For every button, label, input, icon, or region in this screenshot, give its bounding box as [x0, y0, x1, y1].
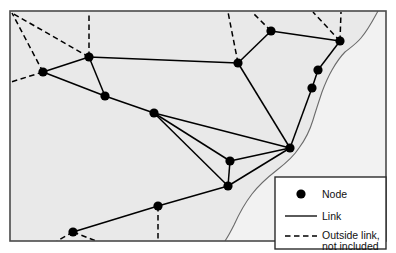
network-node[interactable]: [266, 26, 275, 35]
network-node[interactable]: [38, 67, 47, 76]
network-node[interactable]: [225, 156, 234, 165]
legend-label-outside-link-line2: not included: [322, 240, 379, 252]
network-node[interactable]: [307, 83, 316, 92]
network-node[interactable]: [285, 143, 294, 152]
network-node[interactable]: [233, 58, 242, 67]
network-node[interactable]: [68, 227, 77, 236]
network-node[interactable]: [153, 201, 162, 210]
network-node[interactable]: [100, 91, 109, 100]
network-node[interactable]: [149, 108, 158, 117]
legend: Node Link Outside link, not included: [275, 177, 386, 252]
network-map-figure: Node Link Outside link, not included: [0, 0, 396, 253]
network-node[interactable]: [84, 52, 93, 61]
network-node[interactable]: [335, 36, 344, 45]
legend-label-node: Node: [322, 188, 347, 200]
figure-container: Node Link Outside link, not included: [0, 0, 396, 253]
legend-node-icon: [296, 189, 305, 198]
network-node[interactable]: [313, 65, 322, 74]
legend-label-link: Link: [322, 210, 342, 222]
network-node[interactable]: [223, 181, 232, 190]
